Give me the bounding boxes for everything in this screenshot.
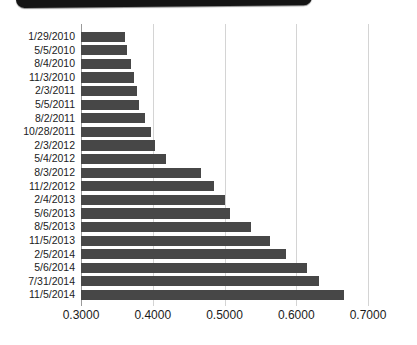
bar-row	[81, 288, 368, 302]
bar-row	[81, 207, 368, 221]
bar[interactable]	[81, 113, 145, 123]
bar-row	[81, 98, 368, 112]
bar-row	[81, 220, 368, 234]
bar[interactable]	[81, 236, 270, 246]
y-axis-label: 8/4/2010	[0, 57, 78, 71]
bar[interactable]	[81, 195, 225, 205]
y-axis-label: 5/5/2010	[0, 44, 78, 58]
x-axis-tick-label: 0.6000	[278, 308, 315, 322]
bar[interactable]	[81, 59, 131, 69]
plot-area	[81, 24, 368, 306]
y-axis-label: 8/2/2011	[0, 112, 78, 126]
bar[interactable]	[81, 140, 155, 150]
bar[interactable]	[81, 208, 230, 218]
bar[interactable]	[81, 276, 319, 286]
bar-chart: 1/29/20105/5/20108/4/201011/3/20102/3/20…	[0, 0, 417, 345]
y-axis-label: 11/5/2014	[0, 288, 78, 302]
bar-row	[81, 57, 368, 71]
bar-row	[81, 234, 368, 248]
bar[interactable]	[81, 263, 307, 273]
bar-row	[81, 71, 368, 85]
x-axis-tick-labels: 0.30000.40000.50000.60000.7000	[0, 308, 417, 328]
y-axis-label: 2/3/2012	[0, 139, 78, 153]
bar-series	[81, 30, 368, 302]
bar-row	[81, 248, 368, 262]
bar[interactable]	[81, 181, 214, 191]
bar[interactable]	[81, 154, 166, 164]
x-axis-tick-label: 0.4000	[134, 308, 171, 322]
y-axis-label: 7/31/2014	[0, 275, 78, 289]
y-axis-label: 11/5/2013	[0, 234, 78, 248]
bar[interactable]	[81, 100, 139, 110]
bar-row	[81, 125, 368, 139]
y-axis-label: 1/29/2010	[0, 30, 78, 44]
y-axis-label: 5/6/2014	[0, 261, 78, 275]
x-axis-tick-label: 0.3000	[63, 308, 100, 322]
bar[interactable]	[81, 72, 134, 82]
bar[interactable]	[81, 249, 286, 259]
gridline-0.7000	[368, 24, 369, 306]
x-axis-tick-label: 0.7000	[350, 308, 387, 322]
bar[interactable]	[81, 86, 137, 96]
y-axis-category-labels: 1/29/20105/5/20108/4/201011/3/20102/3/20…	[0, 30, 78, 302]
y-axis-label: 10/28/2011	[0, 125, 78, 139]
y-axis-label: 2/4/2013	[0, 193, 78, 207]
y-axis-label: 11/3/2010	[0, 71, 78, 85]
bar-row	[81, 261, 368, 275]
y-axis-label: 5/4/2012	[0, 152, 78, 166]
x-axis-tick-label: 0.5000	[206, 308, 243, 322]
y-axis-label: 2/3/2011	[0, 84, 78, 98]
bar-row	[81, 193, 368, 207]
y-axis-label: 8/3/2012	[0, 166, 78, 180]
bar[interactable]	[81, 45, 127, 55]
y-axis-label: 5/5/2011	[0, 98, 78, 112]
bar-row	[81, 44, 368, 58]
bar-row	[81, 139, 368, 153]
bar-row	[81, 180, 368, 194]
y-axis-label: 2/5/2014	[0, 248, 78, 262]
bar[interactable]	[81, 290, 344, 300]
bar-row	[81, 166, 368, 180]
bar[interactable]	[81, 222, 251, 232]
bar[interactable]	[81, 168, 201, 178]
bar-row	[81, 84, 368, 98]
bar-row	[81, 112, 368, 126]
bar[interactable]	[81, 32, 125, 42]
y-axis-label: 8/5/2013	[0, 220, 78, 234]
bar-row	[81, 275, 368, 289]
bar-row	[81, 30, 368, 44]
bar[interactable]	[81, 127, 151, 137]
y-axis-label: 5/6/2013	[0, 207, 78, 221]
bar-row	[81, 152, 368, 166]
y-axis-label: 11/2/2012	[0, 180, 78, 194]
